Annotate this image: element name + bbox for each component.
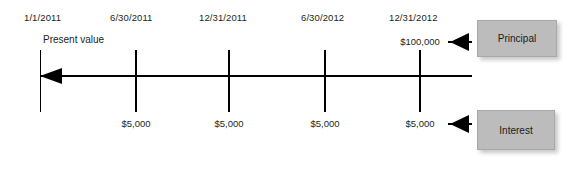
date-label-3: 12/31/2011 xyxy=(199,12,247,23)
timeline-tick-2 xyxy=(135,50,137,112)
timeline-tick-5 xyxy=(419,50,421,112)
date-label-1: 1/1/2011 xyxy=(24,12,61,23)
date-label-4: 6/30/2012 xyxy=(301,12,344,23)
date-label-2: 6/30/2011 xyxy=(110,12,152,23)
date-label-5: 12/31/2012 xyxy=(389,12,438,23)
timeline-axis-line xyxy=(40,75,472,78)
interest-amount-label-1: $5,000 xyxy=(86,118,186,129)
timeline-diagram: 1/1/2011 6/30/2011 12/31/2011 6/30/2012 … xyxy=(0,0,586,169)
interest-callout-arrow-head xyxy=(450,115,469,133)
timeline-tick-3 xyxy=(228,50,230,112)
timeline-axis-arrow xyxy=(40,68,62,84)
principal-callout-box[interactable]: Principal xyxy=(477,20,557,57)
principal-callout-label: Principal xyxy=(498,33,536,44)
present-value-label: Present value xyxy=(43,34,104,45)
timeline-tick-4 xyxy=(324,50,326,112)
interest-amount-label-2: $5,000 xyxy=(179,118,279,129)
interest-amount-label-3: $5,000 xyxy=(275,118,375,129)
interest-callout-label: Interest xyxy=(499,125,532,136)
principal-callout-arrow-head xyxy=(450,33,469,51)
interest-callout-box[interactable]: Interest xyxy=(477,110,555,150)
